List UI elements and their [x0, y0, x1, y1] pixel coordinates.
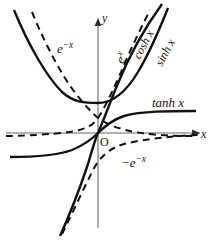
label-neg-exp-neg-x: −e−x: [121, 155, 146, 169]
hyperbolic-functions-figure: e−x ex cosh x sinh x tanh x −e−x y x O: [0, 0, 214, 242]
curve-neg-exp-neg-x: [62, 135, 198, 234]
y-axis: [95, 18, 102, 228]
figure-caption: [0, 232, 214, 242]
curve-exp-neg-x: [32, 12, 196, 136]
y-axis-label: y: [102, 12, 107, 24]
label-tanh: tanh x: [152, 96, 184, 109]
curve-exp-x: [6, 10, 150, 136]
label-exp-neg-x: e−x: [57, 41, 73, 55]
plot-canvas: [0, 0, 214, 242]
x-axis-label: x: [201, 128, 206, 140]
origin-label: O: [100, 136, 109, 148]
